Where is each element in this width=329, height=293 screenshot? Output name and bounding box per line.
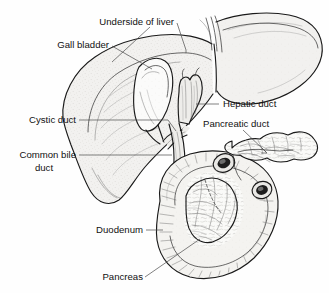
liver-right-lobe: [216, 13, 322, 104]
label-cystic-duct: Cystic duct: [29, 114, 76, 125]
label-hepatic-duct: Hepatic duct: [223, 98, 277, 109]
label-common-bile-duct-line2: duct: [35, 162, 53, 173]
label-gall-bladder: Gall bladder: [57, 39, 110, 50]
label-common-bile-duct-line1: Common bile: [19, 149, 76, 160]
label-underside-of-liver: Underside of liver: [99, 16, 174, 27]
anatomy-illustration: Underside of liver Gall bladder Cystic d…: [0, 0, 329, 293]
label-pancreas: Pancreas: [102, 271, 143, 282]
anatomy-diagram: Underside of liver Gall bladder Cystic d…: [0, 0, 329, 293]
label-duodenum: Duodenum: [96, 224, 143, 235]
label-pancreatic-duct: Pancreatic duct: [203, 118, 269, 129]
